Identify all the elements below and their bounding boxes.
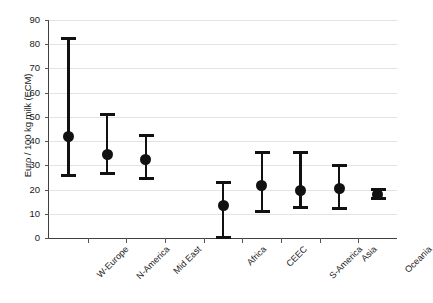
whisker-cap-upper	[332, 164, 347, 167]
whisker-line	[299, 152, 301, 209]
x-axis-tick-label: S-America	[328, 244, 365, 281]
data-point-marker	[218, 200, 229, 211]
whisker-cap-upper	[216, 181, 231, 184]
x-axis-tick	[126, 238, 127, 243]
gridline	[49, 44, 397, 45]
gridline	[49, 68, 397, 69]
y-axis-tick-label: 50	[18, 111, 40, 122]
gridline	[49, 20, 397, 21]
whisker-cap-lower	[332, 207, 347, 210]
y-axis-tick	[45, 165, 49, 166]
whisker-cap-lower	[255, 210, 270, 213]
y-axis-tick	[45, 20, 49, 21]
x-axis-tick-label: Mid East	[171, 244, 203, 276]
x-axis-tick	[358, 238, 359, 243]
whisker-cap-upper	[293, 151, 308, 154]
y-axis-tick-label: 80	[18, 38, 40, 49]
x-axis-tick	[320, 238, 321, 243]
gridline	[49, 93, 397, 94]
x-axis-tick	[204, 238, 205, 243]
data-point-marker	[140, 154, 151, 165]
whisker-cap-lower	[216, 236, 231, 239]
gridline	[49, 141, 397, 142]
y-axis-tick	[45, 68, 49, 69]
x-axis-tick	[88, 238, 89, 243]
whisker-cap-lower	[61, 174, 76, 177]
data-point-marker	[295, 185, 306, 196]
data-point-marker	[102, 149, 113, 160]
y-axis-tick-label: 70	[18, 62, 40, 73]
y-axis-tick	[45, 44, 49, 45]
data-point-marker	[256, 180, 267, 191]
x-axis-tick-label: Africa	[245, 244, 268, 267]
data-point-marker	[63, 131, 74, 142]
plot-area	[48, 20, 397, 239]
x-axis-tick-label: N-America	[134, 244, 171, 281]
y-axis-tick	[45, 141, 49, 142]
whisker-cap-upper	[139, 134, 154, 137]
y-axis-tick-label: 90	[18, 14, 40, 25]
y-axis-tick	[45, 238, 49, 239]
whisker-line	[67, 38, 69, 176]
y-axis-tick-label: 20	[18, 184, 40, 195]
whisker-line	[106, 114, 108, 174]
x-axis-tick-label: W-Europe	[95, 244, 131, 280]
whisker-cap-lower	[293, 206, 308, 209]
y-axis-tick-label: 60	[18, 87, 40, 98]
x-axis-tick	[281, 238, 282, 243]
gridline	[49, 117, 397, 118]
x-axis-tick	[165, 238, 166, 243]
y-axis-tick	[45, 190, 49, 191]
y-axis-tick-label: 0	[18, 232, 40, 243]
y-axis-tick	[45, 214, 49, 215]
y-axis-tick-label: 40	[18, 135, 40, 146]
data-point-marker	[334, 183, 345, 194]
whisker-cap-lower	[100, 172, 115, 175]
x-axis-tick-label: CEEC	[284, 244, 309, 269]
y-axis-tick-label: 10	[18, 208, 40, 219]
y-axis-tick-label: 30	[18, 159, 40, 170]
y-axis-tick	[45, 117, 49, 118]
whisker-cap-upper	[100, 113, 115, 116]
whisker-cap-upper	[255, 151, 270, 154]
y-axis-tick	[45, 93, 49, 94]
whisker-cap-upper	[61, 37, 76, 40]
x-axis-tick	[242, 238, 243, 243]
x-axis-tick-label: Oceania	[402, 244, 433, 275]
x-axis-tick-label: Asia	[359, 244, 378, 263]
data-point-marker	[372, 189, 383, 200]
whisker-cap-lower	[139, 177, 154, 180]
